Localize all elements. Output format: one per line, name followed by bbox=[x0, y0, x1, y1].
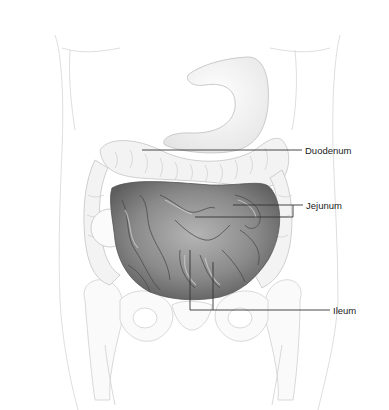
stomach bbox=[164, 57, 269, 153]
label-jejunum: Jejunum bbox=[306, 201, 342, 211]
label-duodenum: Duodenum bbox=[305, 146, 351, 156]
anatomy-figure: Duodenum Jejunum Ileum bbox=[0, 0, 389, 410]
label-ileum: Ileum bbox=[333, 306, 356, 316]
small-intestine bbox=[110, 182, 279, 300]
